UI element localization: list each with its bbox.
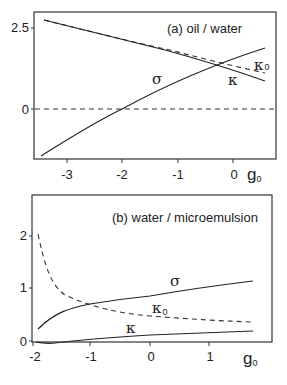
panel-a-title: (a) oil / water [167,21,243,36]
panel-b: 2 1 0 -2 -1 0 1 g0 (b) water / microemul… [20,195,272,368]
panel-b-kappa-label: κ [126,319,136,337]
panel-b-kappa0-label: κ0 [152,299,167,317]
panel-a-sigma-curve [41,48,265,156]
panel-b-ytick-label: 1 [20,280,27,295]
panel-a-sigma-label: σ [152,70,162,88]
panel-a-ytick-label: 2.5 [11,20,29,35]
panel-a-ytick-label: 0 [22,102,29,117]
figure: 2.5 0 -3 -2 -1 0 g0 (a) oil / water σ κ … [0,0,287,385]
panel-a-xtick-label: -2 [116,167,128,182]
panel-a-xlabel: g0 [247,165,261,184]
panel-a-xtick-label: 0 [230,167,237,182]
panel-b-sigma-curve [38,281,253,329]
panel-b-ytick-label: 2 [20,228,27,243]
panel-b-xtick-label: 1 [206,349,213,364]
panel-b-ytick-label: 0 [20,334,27,349]
panel-b-title: (b) water / microemulsion [112,210,258,225]
panel-a-kappa0-label: κ0 [254,56,269,74]
panel-a: 2.5 0 -3 -2 -1 0 g0 (a) oil / water σ κ … [11,12,276,184]
panel-a-kappa-label: κ [228,71,238,89]
panel-b-xtick-label: -1 [85,349,97,364]
panel-a-xtick-label: -3 [61,167,73,182]
panel-b-xtick-label: 0 [147,349,154,364]
panel-b-xlabel: g0 [243,349,257,368]
panel-b-sigma-label: σ [170,272,180,290]
panel-b-xtick-label: -2 [29,349,41,364]
panel-a-xtick-label: -1 [172,167,184,182]
